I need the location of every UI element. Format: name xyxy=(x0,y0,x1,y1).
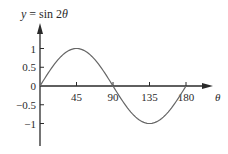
y-tick-label: −0.5 xyxy=(16,99,36,111)
y-axis-arrow-icon xyxy=(37,23,43,34)
x-tick-label: 135 xyxy=(141,91,158,103)
x-axis-arrow-icon xyxy=(202,83,213,89)
x-tick-label: 45 xyxy=(71,91,83,103)
x-tick-label: 180 xyxy=(178,91,195,103)
y-axis: 10.50−0.5−1 xyxy=(16,23,44,146)
sine-chart: y = sin 2θ 10.50−0.5−1 4590135180 θ xyxy=(0,0,228,154)
y-tick-label: 1 xyxy=(31,43,37,55)
y-tick-label: −1 xyxy=(24,118,36,130)
x-axis: 4590135180 θ xyxy=(40,82,221,103)
y-tick-label: 0 xyxy=(31,80,37,92)
x-axis-label: θ xyxy=(215,91,221,103)
y-tick-label: 0.5 xyxy=(22,61,36,73)
chart-title: y = sin 2θ xyxy=(20,7,68,21)
